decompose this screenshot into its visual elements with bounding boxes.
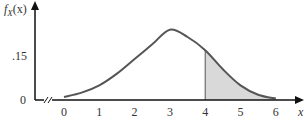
x-tick-3: 3 xyxy=(167,105,173,117)
x-tick-1: 1 xyxy=(96,105,102,117)
y-tick-0: 0 xyxy=(20,93,26,107)
x-tick-2: 2 xyxy=(132,105,138,117)
y-axis-label: fX(x) xyxy=(4,2,27,18)
y-axis xyxy=(31,1,39,100)
x-tick-4: 4 xyxy=(202,105,208,117)
x-axis-arrow-icon xyxy=(295,96,304,104)
y-tick-015: .15 xyxy=(12,49,27,63)
x-tick-6: 6 xyxy=(273,105,279,117)
shaded-area xyxy=(205,50,276,100)
y-axis-arrow-icon xyxy=(31,1,39,10)
density-chart: 0123456 0 .15 fX(x) x xyxy=(0,0,306,117)
axis-break-icon xyxy=(44,97,52,103)
x-tick-labels: 0123456 xyxy=(61,105,279,117)
density-curve xyxy=(64,29,276,98)
x-tick-0: 0 xyxy=(61,105,67,117)
x-tick-5: 5 xyxy=(238,105,244,117)
x-axis-label: x xyxy=(297,105,304,117)
